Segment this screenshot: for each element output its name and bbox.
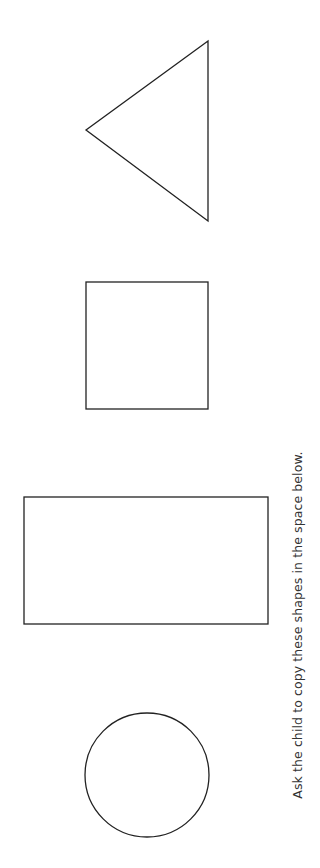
circle-shape <box>85 713 209 837</box>
shapes-canvas <box>0 0 320 868</box>
instruction-text: Ask the child to copy these shapes in th… <box>290 451 305 798</box>
rectangle-shape <box>24 497 268 624</box>
triangle-shape <box>86 41 208 221</box>
square-shape <box>86 282 208 409</box>
